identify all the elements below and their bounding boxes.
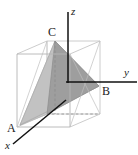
vertex-label-a: A — [7, 122, 16, 134]
geometry-figure: C B A z y x — [0, 0, 138, 155]
figure-canvas — [0, 0, 138, 155]
cube-edge-br-connector — [70, 114, 100, 127]
vertex-label-b: B — [102, 85, 110, 97]
cube-edge-tr-connector — [70, 41, 100, 54]
y-axis-label: y — [124, 67, 129, 78]
x-axis-label: x — [5, 140, 10, 151]
z-axis-label: z — [71, 6, 75, 17]
cube-edge-tl-connector — [17, 41, 47, 54]
vertex-label-c: C — [48, 26, 56, 38]
